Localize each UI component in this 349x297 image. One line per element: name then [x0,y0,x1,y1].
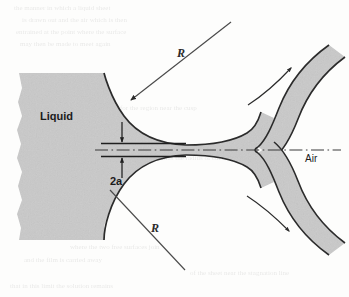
neck-width-label: 2a [110,175,123,187]
air-label: Air [305,153,318,164]
svg-text:may then be made to meet: may then be made to meet again [20,40,111,48]
svg-text:is drawn out and the air: is drawn out and the air which is then [22,16,127,24]
svg-text:that in this limit the so: that in this limit the solution remains [10,282,113,290]
svg-text:where the two free surface: where the two free surfaces join [70,243,160,251]
radius-label-bottom: R [150,221,159,235]
radius-leader-top [131,22,231,100]
radius-leader-bottom [110,190,185,270]
sheet-band-upper [258,45,345,158]
svg-text:of the sheet near the sta: of the sheet near the stagnation line [190,269,289,277]
svg-text:entrained at the point whe: entrained at the point where the surface [16,28,126,36]
svg-text:for the region near the c: for the region near the cusp [120,104,197,112]
sheet-band-lower [258,142,345,255]
figure-container: the manner in which a liquid sheet is dr… [0,0,349,297]
radius-label-top: R [176,46,185,60]
svg-text:the manner in which a li: the manner in which a liquid sheet [14,4,110,12]
diagram-svg: the manner in which a liquid sheet is dr… [0,0,349,297]
svg-text:and the film is carried a: and the film is carried away [24,256,102,264]
liquid-label: Liquid [40,110,73,122]
